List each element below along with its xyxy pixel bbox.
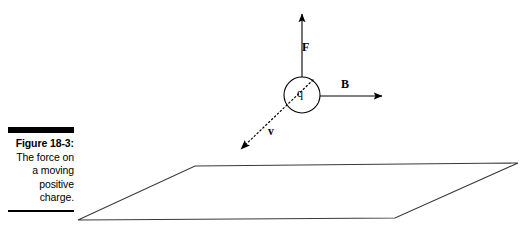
figure-caption-line-4: charge. [8,191,74,205]
ground-plane-parallelogram [78,163,518,220]
magnetic-field-label: B [341,77,349,92]
physics-diagram [0,0,532,233]
figure-page: F B v q Figure 18-3: The force on a movi… [0,0,532,233]
figure-caption-block: Figure 18-3: The force on a moving posit… [8,127,74,205]
figure-caption-line-3: positive [8,178,74,192]
caption-rule-bottom [8,210,74,212]
figure-caption-title: Figure 18-3: [8,137,74,151]
velocity-label: v [268,125,274,137]
charge-label: q [297,86,303,101]
figure-caption-line-1: The force on [8,151,74,165]
force-label: F [302,40,309,55]
figure-caption-text: Figure 18-3: The force on a moving posit… [8,133,74,205]
figure-caption-line-2: a moving [8,164,74,178]
